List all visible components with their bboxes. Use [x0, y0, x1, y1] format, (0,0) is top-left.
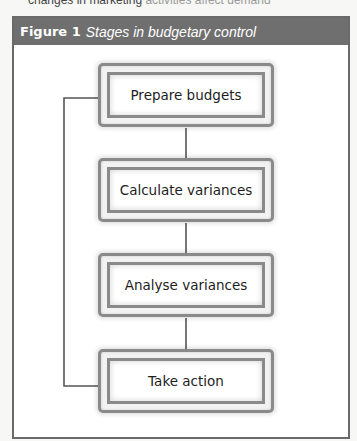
stage-label: Take action [107, 358, 265, 404]
stage-label: Analyse variances [107, 262, 265, 308]
stage-calculate-variances: Calculate variances [98, 158, 274, 222]
feedback-loop-line [64, 98, 112, 386]
stage-label: Calculate variances [107, 167, 265, 213]
stage-analyse-variances: Analyse variances [98, 253, 274, 317]
stage-prepare-budgets: Prepare budgets [98, 63, 274, 127]
stage-take-action: Take action [98, 349, 274, 413]
stage-label: Prepare budgets [107, 72, 265, 118]
